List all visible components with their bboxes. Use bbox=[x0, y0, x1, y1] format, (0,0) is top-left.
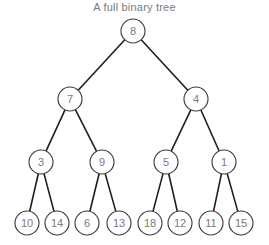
tree-edge bbox=[141, 40, 188, 90]
node-label: 5 bbox=[163, 156, 169, 168]
tree-node-8: 8 bbox=[121, 19, 145, 43]
tree-node-9: 9 bbox=[90, 150, 114, 174]
tree-node-14: 14 bbox=[45, 211, 69, 235]
tree-node-5: 5 bbox=[154, 150, 178, 174]
tree-edges bbox=[30, 40, 238, 212]
node-label: 4 bbox=[193, 93, 199, 105]
node-label: 14 bbox=[51, 217, 63, 229]
node-label: 10 bbox=[21, 217, 33, 229]
tree-edge bbox=[78, 40, 125, 90]
node-label: 1 bbox=[221, 156, 227, 168]
tree-node-4: 4 bbox=[184, 87, 208, 111]
tree-node-6: 6 bbox=[75, 211, 99, 235]
tree-edge bbox=[105, 174, 116, 212]
tree-edge bbox=[201, 110, 219, 151]
node-label: 8 bbox=[130, 25, 136, 37]
tree-edge bbox=[44, 174, 54, 212]
tree-edge bbox=[46, 110, 65, 151]
node-label: 18 bbox=[144, 217, 156, 229]
tree-edge bbox=[169, 174, 178, 212]
tree-edge bbox=[30, 174, 39, 212]
tree-nodes: 8743951101461318121115 bbox=[15, 19, 253, 235]
tree-edge bbox=[214, 174, 222, 212]
node-label: 15 bbox=[235, 217, 247, 229]
tree-edge bbox=[153, 174, 163, 212]
node-label: 7 bbox=[67, 93, 73, 105]
tree-node-12: 12 bbox=[168, 211, 192, 235]
tree-node-18: 18 bbox=[138, 211, 162, 235]
node-label: 13 bbox=[113, 217, 125, 229]
tree-edge bbox=[171, 110, 191, 151]
tree-node-1: 1 bbox=[212, 150, 236, 174]
tree-node-11: 11 bbox=[199, 211, 223, 235]
tree-node-15: 15 bbox=[229, 211, 253, 235]
tree-edge bbox=[90, 174, 99, 212]
tree-node-13: 13 bbox=[107, 211, 131, 235]
tree-node-3: 3 bbox=[29, 150, 53, 174]
node-label: 9 bbox=[99, 156, 105, 168]
tree-edge bbox=[227, 174, 238, 212]
node-label: 12 bbox=[174, 217, 186, 229]
binary-tree-diagram: 8743951101461318121115 bbox=[0, 0, 269, 245]
node-label: 6 bbox=[84, 217, 90, 229]
tree-node-10: 10 bbox=[15, 211, 39, 235]
node-label: 11 bbox=[205, 217, 216, 229]
tree-node-7: 7 bbox=[58, 87, 82, 111]
node-label: 3 bbox=[38, 156, 44, 168]
tree-edge bbox=[75, 110, 96, 152]
